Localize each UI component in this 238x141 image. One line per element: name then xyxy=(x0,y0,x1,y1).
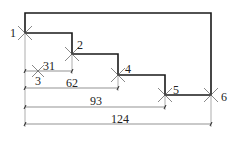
point-label-4: 4 xyxy=(125,62,131,76)
dim-label-93: 93 xyxy=(90,94,102,108)
point-label-1: 1 xyxy=(10,26,16,40)
point-label-5: 5 xyxy=(173,83,179,97)
point-label-2: 2 xyxy=(77,38,83,52)
dim-label-124: 124 xyxy=(111,112,129,126)
dim-label-31: 31 xyxy=(43,59,55,73)
dim-label-62: 62 xyxy=(66,76,78,90)
point-label-6: 6 xyxy=(221,90,227,104)
point-label-3: 3 xyxy=(35,74,41,88)
stepped-profile-diagram: 1 2 3 4 5 6 31 62 93 124 xyxy=(0,0,238,141)
